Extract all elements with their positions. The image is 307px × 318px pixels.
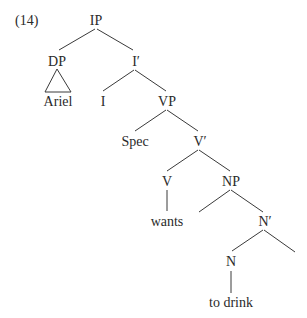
edge-vp-spec [135,110,166,131]
node-spec: Spec [121,134,148,149]
example-number: (14) [15,13,39,29]
node-vp: VP [158,94,176,109]
node-i-bar: I′ [132,54,140,69]
edge-vbar-np [199,150,230,171]
leaf-wants: wants [151,214,184,229]
node-n: N [226,254,236,269]
leaf-to-drink: to drink [209,295,253,310]
edge-ip-dp [59,29,95,50]
node-dp: DP [48,54,66,69]
edge-nbar-empty [264,230,295,252]
edge-np-nbar [231,190,263,212]
triangle-icon [45,69,71,92]
node-n-bar: N′ [258,214,271,229]
node-i: I [101,94,106,109]
edge-ibar-i [103,70,134,91]
syntax-tree-diagram: (14) IP DP Ariel I′ I VP Spec V′ V wants… [0,0,307,318]
node-np: NP [222,174,240,189]
edge-np-empty [199,190,230,212]
edge-vbar-v [167,150,198,171]
leaf-ariel: Ariel [44,94,73,109]
edge-nbar-n [232,230,263,251]
node-v-bar: V′ [193,134,206,149]
edge-vp-vbar [167,110,198,131]
edge-ip-ibar [97,29,133,50]
node-v: V [162,174,172,189]
node-ip: IP [90,13,103,28]
edge-ibar-vp [135,70,166,91]
